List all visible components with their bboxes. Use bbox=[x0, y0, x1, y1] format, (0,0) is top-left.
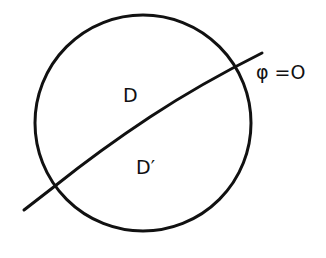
dividing-curve bbox=[24, 53, 262, 210]
curve-label: φ =O bbox=[256, 61, 305, 83]
region-d-label: D bbox=[123, 84, 138, 106]
region-d-prime-label: D′ bbox=[136, 156, 155, 178]
diagram-canvas: D D′ φ =O bbox=[0, 0, 326, 258]
